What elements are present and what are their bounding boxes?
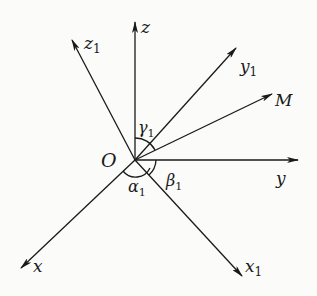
axis-labels: z z1 y1 M y x x1 (33, 17, 293, 279)
label-alpha1: α1 (128, 177, 146, 199)
svg-text:O: O (101, 149, 117, 171)
label-x1: x1 (245, 256, 262, 279)
axis-x (21, 160, 135, 268)
origin-label: O (101, 149, 117, 171)
label-y: y (275, 168, 286, 188)
vector-M (135, 94, 272, 160)
label-beta1: β1 (165, 171, 182, 193)
label-z1: z1 (83, 33, 101, 56)
axis-z1 (72, 40, 135, 160)
label-gamma1: γ1 (138, 118, 155, 140)
axis-x1 (135, 160, 242, 276)
rotation-diagram: O z z1 y1 M y x x1 γ1 α1 β1 (0, 0, 317, 296)
label-y1: y1 (239, 56, 257, 79)
label-M: M (274, 90, 293, 110)
angle-beta1-arc (149, 160, 156, 175)
label-z: z (140, 17, 151, 37)
label-x: x (33, 256, 43, 276)
